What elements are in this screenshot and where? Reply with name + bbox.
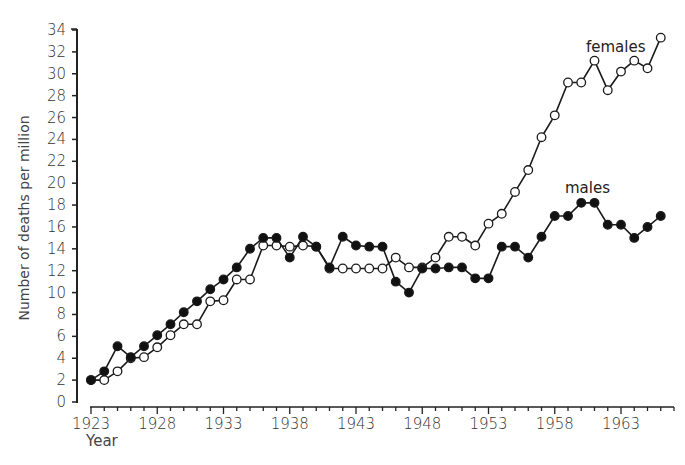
- females-data-point: [656, 33, 665, 42]
- males-data-point: [590, 199, 599, 208]
- y-tick-label: 30: [47, 65, 66, 83]
- y-tick-label: 8: [56, 305, 66, 323]
- females-data-point: [405, 263, 414, 272]
- y-tick-label: 12: [47, 262, 66, 280]
- females-data-point: [352, 264, 361, 273]
- males-series: [87, 199, 665, 385]
- females-data-point: [391, 253, 400, 262]
- females-data-point: [153, 343, 162, 352]
- males-data-point: [166, 320, 175, 329]
- females-data-point: [524, 166, 533, 175]
- males-data-point: [100, 367, 109, 376]
- y-tick-label: 24: [47, 130, 66, 148]
- males-data-point: [299, 232, 308, 241]
- males-label: males: [565, 179, 610, 197]
- females-data-point: [179, 320, 188, 329]
- females-label: females: [586, 38, 646, 56]
- x-tick-label: 1938: [271, 415, 309, 433]
- males-data-point: [405, 288, 414, 297]
- females-data-point: [497, 210, 506, 219]
- x-tick-label: 1948: [403, 415, 441, 433]
- males-data-point: [431, 264, 440, 273]
- females-data-point: [564, 78, 573, 87]
- females-data-point: [285, 242, 294, 251]
- males-data-point: [272, 234, 281, 243]
- males-data-point: [643, 223, 652, 232]
- y-tick-label: 0: [56, 393, 66, 411]
- males-data-point: [617, 220, 626, 229]
- males-data-point: [378, 242, 387, 251]
- males-data-point: [153, 331, 162, 340]
- y-tick-label: 26: [47, 109, 66, 127]
- series-layer: [87, 33, 665, 384]
- females-data-point: [617, 67, 626, 76]
- males-data-point: [458, 263, 467, 272]
- males-data-point: [564, 212, 573, 221]
- males-data-point: [511, 242, 520, 251]
- males-data-point: [179, 308, 188, 317]
- y-tick-label: 10: [47, 284, 66, 302]
- y-tick-label: 14: [47, 240, 66, 258]
- y-tick-label: 22: [47, 152, 66, 170]
- males-data-point: [140, 342, 149, 351]
- females-data-point: [484, 219, 493, 228]
- y-tick-label: 6: [56, 327, 66, 345]
- males-data-point: [537, 232, 546, 241]
- males-data-point: [285, 253, 294, 262]
- y-tick-label: 18: [47, 196, 66, 214]
- females-data-point: [365, 264, 374, 273]
- females-series: [87, 33, 665, 384]
- males-data-point: [630, 234, 639, 243]
- females-data-point: [603, 86, 612, 95]
- males-data-point: [603, 220, 612, 229]
- males-data-point: [550, 212, 559, 221]
- females-data-point: [100, 376, 109, 385]
- x-tick-label: 1958: [536, 415, 574, 433]
- line-chart: 0246810121416182022242628303234 19231928…: [0, 0, 685, 465]
- females-data-point: [232, 275, 241, 284]
- females-data-point: [444, 232, 453, 241]
- males-data-point: [365, 242, 374, 251]
- females-data-point: [378, 264, 387, 273]
- x-tick-label: 1943: [337, 415, 375, 433]
- females-data-point: [193, 320, 202, 329]
- males-data-point: [444, 263, 453, 272]
- y-tick-label: 4: [56, 349, 66, 367]
- males-data-point: [259, 234, 268, 243]
- females-data-point: [246, 275, 255, 284]
- males-data-point: [312, 242, 321, 251]
- females-data-point: [537, 133, 546, 142]
- females-data-point: [550, 111, 559, 120]
- x-tick-label: 1933: [204, 415, 242, 433]
- y-tick-label: 20: [47, 174, 66, 192]
- males-data-point: [325, 263, 334, 272]
- y-tick-label: 28: [47, 87, 66, 105]
- males-data-point: [126, 353, 135, 362]
- males-data-point: [484, 274, 493, 283]
- females-data-point: [431, 253, 440, 262]
- males-data-point: [497, 242, 506, 251]
- x-axis-title: Year: [85, 432, 119, 450]
- females-data-point: [219, 296, 228, 305]
- females-data-point: [511, 188, 520, 197]
- y-axis-title: Number of deaths per million: [16, 115, 32, 320]
- y-tick-label: 32: [47, 43, 66, 61]
- males-data-point: [352, 241, 361, 250]
- females-data-point: [458, 232, 467, 241]
- y-axis: 0246810121416182022242628303234: [47, 21, 77, 411]
- males-data-point: [219, 275, 228, 284]
- males-data-point: [471, 274, 480, 283]
- males-data-point: [391, 277, 400, 286]
- y-tick-label: 16: [47, 218, 66, 236]
- females-data-point: [166, 331, 175, 340]
- males-data-point: [87, 376, 96, 385]
- males-data-point: [246, 245, 255, 254]
- males-data-point: [232, 263, 241, 272]
- y-tick-label: 2: [56, 371, 66, 389]
- females-data-point: [113, 367, 122, 376]
- males-data-point: [524, 253, 533, 262]
- y-tick-label: 34: [47, 21, 66, 39]
- x-tick-label: 1953: [469, 415, 507, 433]
- x-axis: 192319281933193819431948195319581963: [72, 407, 674, 433]
- females-data-point: [577, 78, 586, 87]
